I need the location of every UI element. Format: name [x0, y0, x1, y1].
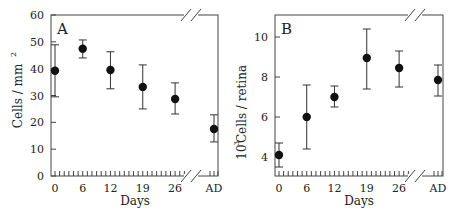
y-tick-label: 10: [30, 143, 44, 156]
data-point: [330, 93, 338, 101]
x-axis-title-a: Days: [120, 194, 150, 208]
y-tick-label: 50: [30, 36, 44, 49]
data-point: [139, 83, 147, 91]
data-point: [275, 151, 283, 159]
y-tick-label: 0: [37, 170, 44, 183]
x-tick-label: 0: [52, 182, 59, 195]
y-tick-label: 8: [261, 71, 268, 84]
x-tick-label: 26: [392, 182, 406, 195]
data-point: [395, 64, 403, 72]
panel-letter-b: B: [281, 20, 292, 38]
x-tick-label: 0: [276, 182, 283, 195]
data-point: [79, 45, 87, 53]
y-tick-label: 4: [261, 151, 268, 164]
figure: A Days Cells / mm 2 01020304050600612192…: [0, 0, 453, 214]
data-point: [106, 66, 114, 74]
x-tick-label: 26: [168, 182, 182, 195]
x-tick-label: AD: [205, 182, 223, 195]
y-axis-title-b: Cells / retina 10 3: [232, 65, 249, 160]
data-point: [303, 113, 311, 121]
data-point: [434, 76, 442, 84]
y-axis-title-b-superscript: 3: [232, 141, 241, 146]
chart-canvas: A Days Cells / mm 2 01020304050600612192…: [0, 0, 453, 214]
x-tick-label: 6: [303, 182, 310, 195]
y-tick-label: 20: [30, 116, 44, 129]
plot-frame: [275, 15, 443, 176]
y-axis-title-a-text: Cells / mm: [11, 63, 25, 128]
y-axis-title-b-text: Cells / retina: [235, 65, 249, 143]
x-tick-label: AD: [429, 182, 447, 195]
panel-a: A Days Cells / mm 2 01020304050600612192…: [9, 9, 223, 208]
x-tick-label: 6: [79, 182, 86, 195]
y-tick-label: 40: [30, 63, 44, 76]
panel-letter-a: A: [56, 20, 68, 38]
data-point: [171, 95, 179, 103]
data-point: [363, 54, 371, 62]
y-tick-label: 30: [30, 90, 44, 103]
x-tick-label: 12: [103, 182, 117, 195]
y-tick-label: 10: [254, 31, 268, 44]
data-point: [210, 125, 218, 133]
plot-frame: [51, 15, 218, 176]
y-tick-label: 6: [261, 111, 268, 124]
x-tick-label: 19: [360, 182, 374, 195]
x-tick-label: 19: [136, 182, 150, 195]
data-point: [51, 67, 59, 75]
x-axis-title-b: Days: [344, 194, 374, 208]
y-axis-title-a: Cells / mm 2: [9, 52, 25, 128]
y-axis-title-a-superscript: 2: [9, 52, 18, 57]
panel-b: B Days Cells / retina 10 3 4681006121926…: [232, 9, 447, 208]
y-tick-label: 60: [30, 9, 44, 22]
x-tick-label: 12: [327, 182, 341, 195]
